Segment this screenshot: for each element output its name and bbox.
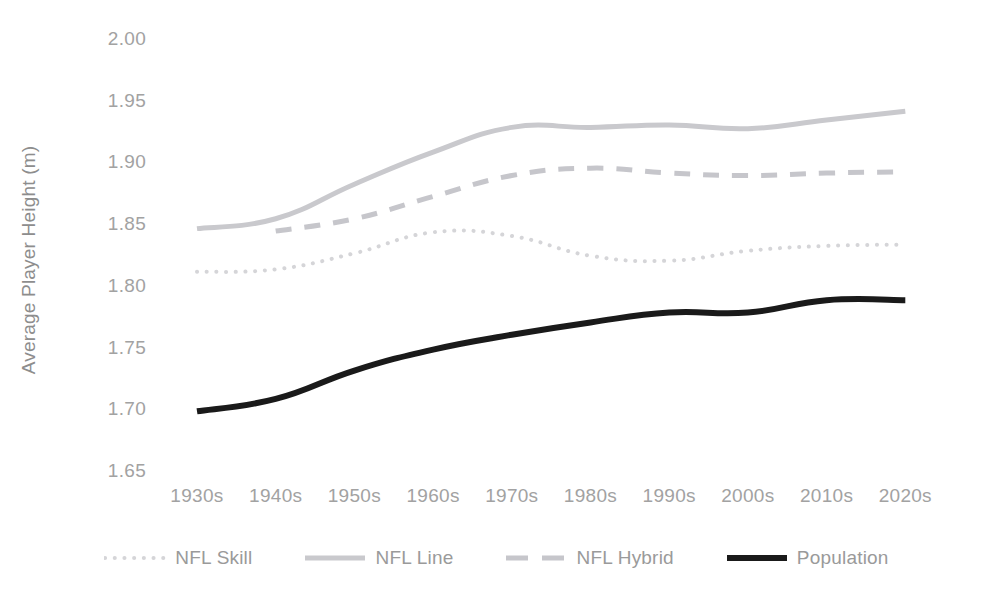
x-axis-tick: 2020s [860, 485, 950, 507]
legend-label: NFL Line [375, 547, 453, 569]
legend-swatch-icon [104, 553, 166, 563]
x-axis-tick: 2010s [782, 485, 872, 507]
series-line-nfl-hybrid [276, 168, 906, 231]
x-axis-tick: 2000s [703, 485, 793, 507]
legend-label: NFL Skill [175, 547, 252, 569]
x-axis-tick: 1950s [309, 485, 399, 507]
x-axis-tick: 1930s [152, 485, 242, 507]
series-line-nfl-skill [197, 230, 905, 271]
y-axis-tick: 1.75 [76, 337, 146, 359]
legend-item-nfl-skill[interactable]: NFL Skill [104, 547, 252, 569]
legend-label: NFL Hybrid [576, 547, 673, 569]
x-axis-tick: 1990s [624, 485, 714, 507]
y-axis-tick: 1.65 [76, 460, 146, 482]
chart-legend: NFL SkillNFL LineNFL HybridPopulation [0, 541, 993, 575]
y-axis-tick: 1.80 [76, 275, 146, 297]
series-line-nfl-line [197, 111, 905, 228]
legend-item-nfl-line[interactable]: NFL Line [304, 547, 453, 569]
legend-item-population[interactable]: Population [726, 547, 889, 569]
x-axis-tick: 1970s [467, 485, 557, 507]
y-axis-tick: 1.90 [76, 151, 146, 173]
x-axis-tick: 1940s [231, 485, 321, 507]
legend-item-nfl-hybrid[interactable]: NFL Hybrid [505, 547, 673, 569]
y-axis-tick: 1.85 [76, 213, 146, 235]
y-axis-title: Average Player Height (m) [14, 60, 44, 460]
x-axis-tick: 1980s [546, 485, 636, 507]
legend-swatch-icon [726, 553, 788, 563]
y-axis-tick-labels: 1.651.701.751.801.851.901.952.00 [70, 0, 146, 520]
chart-container: Average Player Height (m) 1.651.701.751.… [0, 0, 993, 597]
y-axis-tick: 1.95 [76, 90, 146, 112]
x-axis-tick-labels: 1930s1940s1950s1960s1970s1980s1990s2000s… [0, 485, 993, 515]
legend-swatch-icon [505, 553, 567, 563]
legend-swatch-icon [304, 553, 366, 563]
y-axis-title-text: Average Player Height (m) [18, 146, 40, 375]
y-axis-tick: 1.70 [76, 398, 146, 420]
series-line-population [197, 299, 905, 411]
legend-label: Population [797, 547, 889, 569]
x-axis-tick: 1960s [388, 485, 478, 507]
y-axis-tick: 2.00 [76, 28, 146, 50]
